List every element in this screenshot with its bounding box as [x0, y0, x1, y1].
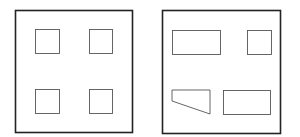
rectangle-bottom-right [224, 91, 271, 115]
square-top-left [36, 30, 60, 54]
square-bottom-right [90, 90, 113, 114]
square-top-right [90, 30, 113, 54]
trapezoid-bottom-left [172, 90, 210, 114]
left-panel [16, 11, 133, 133]
right-panel [163, 11, 281, 134]
square-top-right [248, 31, 272, 55]
diagram-canvas [0, 0, 300, 137]
left-panel-frame [16, 11, 133, 133]
rectangle-top-left [173, 31, 221, 55]
right-panel-frame [163, 11, 281, 134]
square-bottom-left [36, 90, 60, 114]
